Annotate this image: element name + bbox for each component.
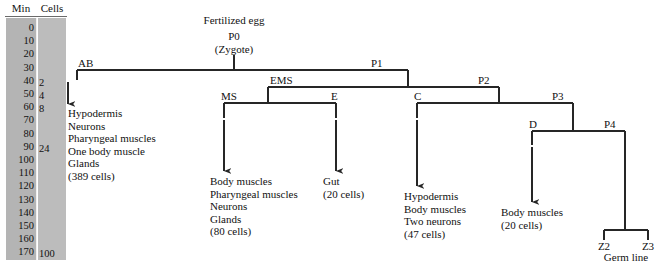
fate-cell-count: (389 cells): [68, 170, 156, 183]
fate-line: Body muscles: [210, 175, 298, 188]
node-label-p3: P3: [552, 90, 564, 102]
fate-line: Hypodermis: [68, 107, 156, 120]
fate-list-ab: HypodermisNeuronsPharyngeal musclesOne b…: [68, 107, 156, 183]
node-label-ab: AB: [78, 57, 93, 69]
fate-cell-count: (20 cells): [501, 219, 563, 232]
node-label-d: D: [529, 118, 537, 130]
node-label-fertilized-egg: Fertilized egg: [184, 14, 284, 26]
fate-line: Neurons: [68, 120, 156, 133]
fate-line: Pharyngeal muscles: [210, 188, 298, 201]
fate-line: Glands: [210, 213, 298, 226]
fate-line: Glands: [68, 157, 156, 170]
fate-line: Body muscles: [501, 206, 563, 219]
fate-line: Pharyngeal muscles: [68, 132, 156, 145]
node-label-germ-line: Germ line: [595, 251, 657, 263]
node-label-p4: P4: [604, 118, 616, 130]
fate-cell-count: (47 cells): [404, 228, 466, 241]
fate-line: Gut: [323, 175, 364, 188]
node-label-zygote: (Zygote): [184, 43, 284, 55]
fate-list-c: HypodermisBody musclesTwo neurons(47 cel…: [404, 190, 466, 240]
node-label-ems: EMS: [270, 74, 293, 86]
fate-cell-count: (80 cells): [210, 225, 298, 238]
fate-line: Neurons: [210, 200, 298, 213]
node-label-ms: MS: [221, 90, 237, 102]
fate-list-ms: Body musclesPharyngeal musclesNeuronsGla…: [210, 175, 298, 238]
fate-line: One body muscle: [68, 145, 156, 158]
fate-line: Hypodermis: [404, 190, 466, 203]
lineage-diagram: Min Cells 010203040506070809010011012013…: [0, 0, 667, 266]
node-label-p1: P1: [371, 57, 383, 69]
fate-line: Body muscles: [404, 203, 466, 216]
fate-list-e: Gut(20 cells): [323, 175, 364, 200]
fate-cell-count: (20 cells): [323, 188, 364, 201]
node-label-e: E: [331, 90, 338, 102]
fate-line: Two neurons: [404, 215, 466, 228]
node-label-p0: P0: [184, 30, 284, 42]
node-label-p2: P2: [478, 74, 490, 86]
fate-list-d: Body muscles(20 cells): [501, 206, 563, 231]
node-label-c: C: [414, 90, 421, 102]
